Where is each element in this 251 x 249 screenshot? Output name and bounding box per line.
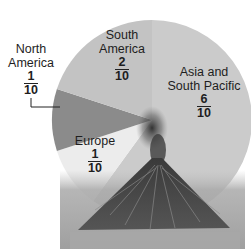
fraction-asia-south-pacific: 6 10	[197, 93, 211, 120]
label-asia-south-pacific: Asia and South Pacific 6 10	[162, 65, 246, 120]
fraction-south-america: 2 10	[115, 56, 129, 83]
label-europe: Europe 1 10	[70, 134, 120, 175]
label-south-america: South America 2 10	[88, 28, 156, 83]
fraction-europe: 1 10	[88, 148, 102, 175]
fraction-north-america: 1 10	[24, 70, 38, 97]
label-north-america: North America 1 10	[2, 42, 60, 97]
